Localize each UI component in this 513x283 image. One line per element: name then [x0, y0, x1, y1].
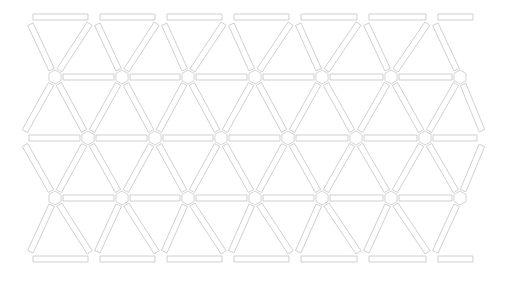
hexagon-joint-icon [249, 70, 261, 84]
hexagon-joint-icon [49, 70, 61, 84]
lattice-bar [163, 135, 213, 141]
lattice-bar [289, 143, 320, 192]
lattice-bar [433, 135, 477, 141]
lattice-bar [63, 195, 114, 201]
triangular-lattice-diagram [0, 0, 513, 283]
lattice-bar [364, 23, 391, 71]
hexagon-joint-icon [385, 70, 397, 84]
lattice-bar [438, 256, 473, 262]
lattice-bar [399, 195, 452, 201]
hexagon-joint-icon [385, 191, 397, 205]
hexagon-joint-icon [316, 191, 328, 205]
lattice-bar [190, 22, 226, 72]
lattice-bar [124, 203, 159, 254]
lattice-bar [364, 204, 391, 253]
lattice-bar [433, 204, 460, 253]
hexagon-joint-icon [215, 131, 227, 145]
lattice-bar [296, 23, 322, 71]
lattice-bar [222, 143, 253, 192]
lattice-bar [57, 203, 92, 254]
lattice-bar [295, 204, 321, 253]
lattice-bar [33, 14, 88, 20]
lattice-bar [57, 22, 92, 72]
hexagon-joint-icon [282, 131, 294, 145]
lattice-bar [196, 74, 247, 80]
lattice-bar [433, 23, 460, 71]
lattice-bar [56, 83, 87, 133]
lattice-bar [190, 203, 226, 254]
lattice-bar [95, 23, 122, 71]
lattice-bar [369, 256, 426, 262]
hexagon-joint-icon [350, 131, 362, 145]
lattice-bar [89, 143, 120, 192]
lattice-bar [33, 256, 88, 262]
hexagon-joint-icon [49, 191, 61, 205]
hexagon-joint-icon [454, 191, 466, 205]
lattice-bar [263, 74, 314, 80]
lattice-bar [289, 83, 320, 133]
lattice-bar [460, 144, 484, 192]
lattice-bar [357, 143, 389, 192]
lattice-bar [22, 83, 53, 133]
lattice-bar [130, 195, 180, 201]
lattice-bar [95, 204, 122, 253]
hexagon-joint-icon [82, 131, 94, 145]
lattice-bar [256, 83, 287, 133]
lattice-bar [162, 23, 188, 71]
lattice-bar [257, 22, 293, 72]
lattice-bar [330, 195, 383, 201]
lattice-bar [100, 14, 155, 20]
hexagon-joint-icon [182, 70, 194, 84]
lattice-bar [156, 144, 187, 193]
lattice-bar [189, 83, 220, 133]
lattice-bar [96, 135, 147, 141]
lattice-bar [156, 83, 187, 133]
lattice-bar [323, 83, 354, 133]
lattice-bar [364, 135, 417, 141]
lattice-bar [29, 135, 80, 141]
lattice-bar [222, 83, 253, 133]
lattice-bar [357, 82, 389, 132]
lattice-bar [100, 256, 155, 262]
hexagon-joint-icon [149, 131, 161, 145]
lattice-bar [393, 203, 430, 254]
lattice-bar [28, 23, 55, 71]
lattice-bar [324, 22, 361, 72]
lattice-bar [124, 22, 159, 72]
lattice-bar [130, 74, 180, 80]
lattice-bar [63, 74, 114, 80]
lattice-bar [324, 203, 361, 254]
lattice-bar [22, 143, 53, 192]
hexagon-joint-icon [116, 191, 128, 205]
lattice-bar [392, 143, 423, 192]
lattice-bar [167, 14, 222, 20]
hexagon-joint-icon [316, 70, 328, 84]
lattice-bar [234, 14, 289, 20]
lattice-bar [229, 135, 280, 141]
lattice-bar [330, 74, 383, 80]
lattice-bar [234, 256, 289, 262]
lattice-bar [301, 256, 357, 262]
lattice-bar [189, 144, 220, 193]
hexagon-joint-icon [182, 191, 194, 205]
lattice-bar [296, 135, 348, 141]
lattice-bar [123, 83, 154, 133]
lattice-bar [460, 83, 484, 131]
lattice-bar [399, 74, 452, 80]
lattice-bar [392, 83, 423, 133]
lattice-bar [426, 82, 458, 132]
hexagon-joint-icon [249, 191, 261, 205]
lattice-bar [369, 14, 426, 20]
lattice-bar [28, 204, 55, 253]
lattice-bar [438, 14, 473, 20]
lattice-bar [229, 23, 255, 71]
lattice-bar [56, 144, 87, 193]
hexagon-joint-icon [116, 70, 128, 84]
lattice-bar [256, 144, 287, 193]
lattice-bar [426, 143, 458, 192]
hexagon-joint-icon [454, 70, 466, 84]
lattice-bar [301, 14, 357, 20]
lattice-bar [228, 204, 254, 253]
lattice-bar [89, 83, 120, 133]
lattice-bar [263, 195, 314, 201]
